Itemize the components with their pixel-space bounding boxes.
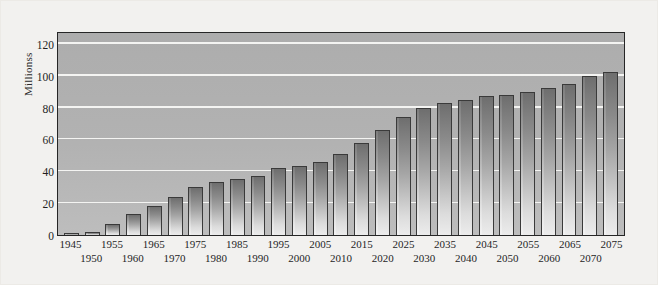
x-tick-label: 2055 <box>505 238 551 250</box>
bar-cell <box>538 33 559 235</box>
x-tick-label: 1945 <box>47 238 93 250</box>
bar-cell <box>268 33 289 235</box>
bar[interactable] <box>375 130 390 235</box>
x-tick-label: 2075 <box>589 238 635 250</box>
x-tick-label: 1955 <box>89 238 135 250</box>
bar-cell <box>144 33 165 235</box>
bar-cell <box>579 33 600 235</box>
bar-cell <box>517 33 538 235</box>
x-tick-label: 2035 <box>422 238 468 250</box>
bar[interactable] <box>354 143 369 235</box>
bar-cell <box>185 33 206 235</box>
bar-cell <box>600 33 621 235</box>
bar[interactable] <box>562 84 577 235</box>
x-tick-label: 2070 <box>568 252 614 264</box>
bar[interactable] <box>499 95 514 235</box>
bar-cell <box>206 33 227 235</box>
bar[interactable] <box>396 117 411 235</box>
y-axis-ticks: 020406080100120 <box>0 0 54 285</box>
bar-cell <box>413 33 434 235</box>
bar-cell <box>123 33 144 235</box>
bar-cell <box>476 33 497 235</box>
x-tick-label: 2000 <box>276 252 322 264</box>
bar-chart-figure: Millionss 020406080100120 19451950195519… <box>0 0 658 285</box>
x-tick-label: 1975 <box>172 238 218 250</box>
x-tick-label: 2060 <box>526 252 572 264</box>
bar[interactable] <box>313 162 328 235</box>
bar-cell <box>351 33 372 235</box>
bar[interactable] <box>251 176 266 235</box>
bar[interactable] <box>105 224 120 235</box>
bar-cell <box>393 33 414 235</box>
bar-cell <box>434 33 455 235</box>
x-tick-label: 2020 <box>360 252 406 264</box>
bar-cell <box>248 33 269 235</box>
plot-area <box>57 32 625 236</box>
bar-cell <box>227 33 248 235</box>
bar[interactable] <box>416 108 431 236</box>
y-tick-label: 60 <box>8 134 54 146</box>
x-tick-label: 1965 <box>131 238 177 250</box>
x-tick-label: 1990 <box>235 252 281 264</box>
x-tick-label: 1960 <box>110 252 156 264</box>
bar[interactable] <box>520 92 535 235</box>
bar-cell <box>310 33 331 235</box>
bar[interactable] <box>292 166 307 235</box>
x-tick-label: 2015 <box>339 238 385 250</box>
y-tick-label: 100 <box>8 71 54 83</box>
bar-cell <box>82 33 103 235</box>
bar[interactable] <box>582 76 597 235</box>
bar-cell <box>331 33 352 235</box>
bar-cell <box>289 33 310 235</box>
bar[interactable] <box>603 72 618 235</box>
bar[interactable] <box>147 206 162 235</box>
x-tick-label: 1970 <box>151 252 197 264</box>
y-tick-label: 120 <box>8 39 54 51</box>
bar[interactable] <box>64 233 79 235</box>
x-tick-label: 2065 <box>547 238 593 250</box>
bar[interactable] <box>126 214 141 235</box>
x-tick-label: 1995 <box>256 238 302 250</box>
bar[interactable] <box>333 154 348 235</box>
bar[interactable] <box>168 197 183 235</box>
bar-cell <box>165 33 186 235</box>
bar[interactable] <box>479 96 494 235</box>
bar[interactable] <box>458 100 473 235</box>
x-axis-ticks: 1945195019551960196519701975198019851990… <box>57 238 625 278</box>
bar-cell <box>455 33 476 235</box>
x-tick-label: 2040 <box>443 252 489 264</box>
x-tick-label: 1950 <box>68 252 114 264</box>
bar-cell <box>559 33 580 235</box>
x-tick-label: 2025 <box>380 238 426 250</box>
bar[interactable] <box>230 179 245 235</box>
bar[interactable] <box>188 187 203 235</box>
x-tick-label: 2050 <box>485 252 531 264</box>
x-tick-label: 1985 <box>214 238 260 250</box>
bar[interactable] <box>271 168 286 235</box>
bar[interactable] <box>85 232 100 235</box>
bar-cell <box>496 33 517 235</box>
bar[interactable] <box>541 88 556 235</box>
x-tick-label: 2030 <box>401 252 447 264</box>
bar[interactable] <box>437 103 452 235</box>
x-tick-label: 2005 <box>297 238 343 250</box>
bar-cell <box>372 33 393 235</box>
y-tick-label: 80 <box>8 103 54 115</box>
x-tick-label: 2010 <box>318 252 364 264</box>
bar-cell <box>61 33 82 235</box>
y-tick-label: 20 <box>8 198 54 210</box>
bar[interactable] <box>209 182 224 235</box>
bar-cell <box>102 33 123 235</box>
bar-series <box>58 33 624 235</box>
x-tick-label: 1980 <box>193 252 239 264</box>
x-tick-label: 2045 <box>464 238 510 250</box>
y-tick-label: 40 <box>8 166 54 178</box>
